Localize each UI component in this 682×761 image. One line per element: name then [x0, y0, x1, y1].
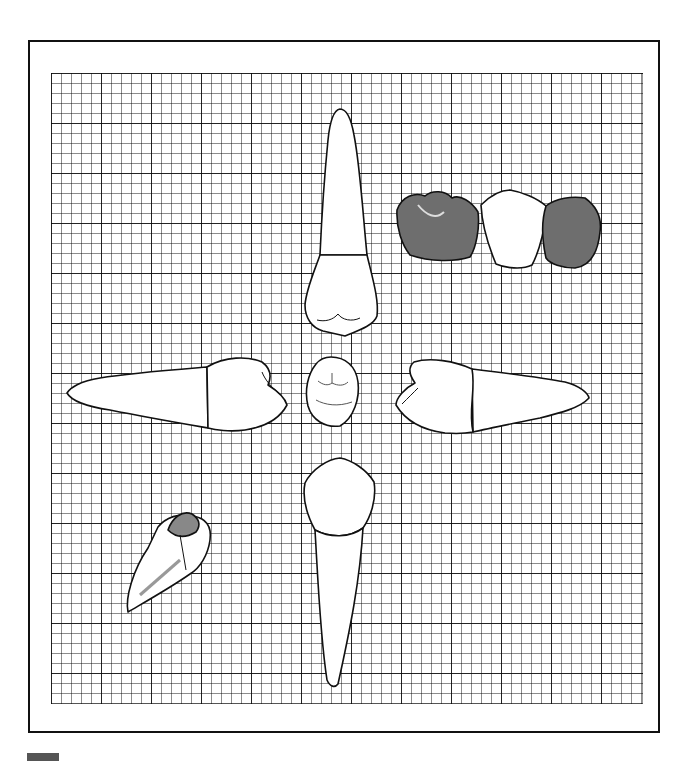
- tooth-view-right: [396, 360, 589, 434]
- tooth-drawings: [0, 0, 682, 761]
- tooth-view-bottom: [304, 458, 375, 686]
- orientation-inset: [127, 513, 210, 612]
- figure-tag-block: [27, 753, 59, 761]
- adjacent-teeth-group: [397, 190, 600, 268]
- tooth-view-top: [305, 109, 377, 336]
- tooth-view-occlusal: [306, 357, 358, 426]
- tooth-view-left: [67, 358, 287, 431]
